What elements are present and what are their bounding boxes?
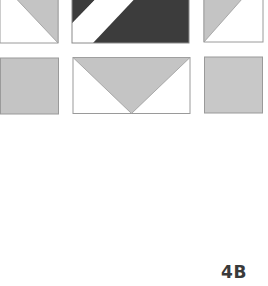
tile-bottom-middle xyxy=(73,58,190,114)
tile-bottom-left xyxy=(1,58,59,114)
tile-top-middle xyxy=(72,0,189,43)
quilt-block-diagram xyxy=(0,0,268,286)
tile-bottom-right xyxy=(205,57,263,113)
tile-top-right xyxy=(204,0,263,42)
tile-top-left xyxy=(0,0,58,43)
figure-label: 4B xyxy=(214,262,254,282)
